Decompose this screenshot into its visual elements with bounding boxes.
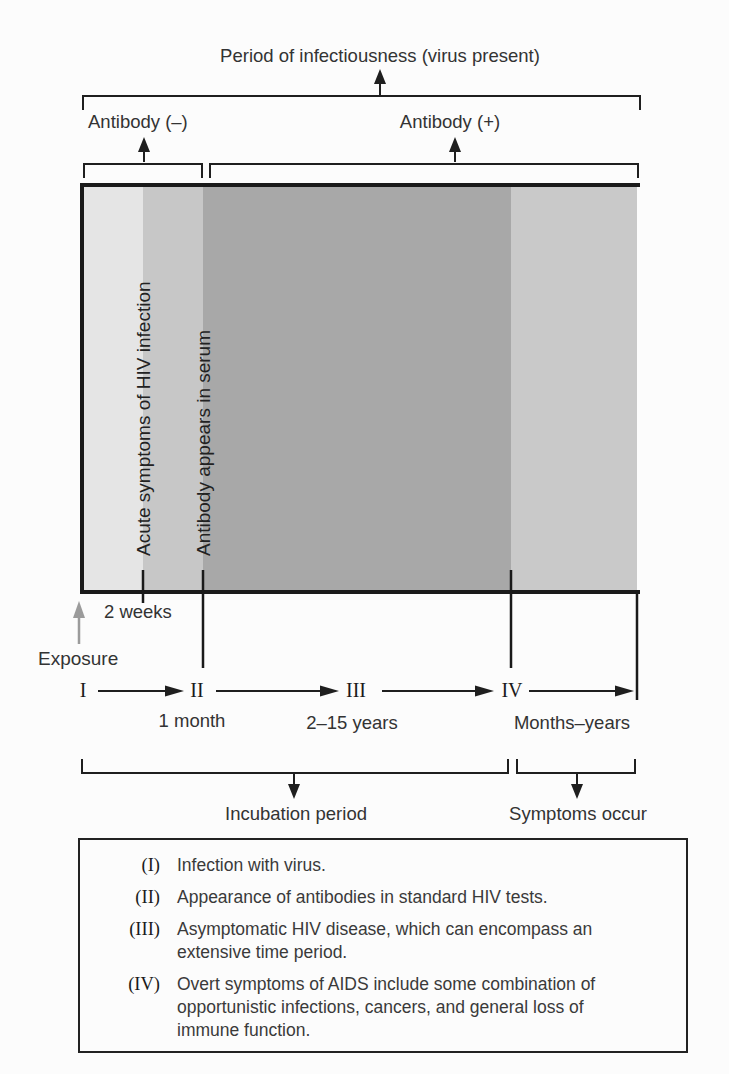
antibody-negative-up-arrow-icon (138, 137, 150, 162)
legend-row-4: (IV) Overt symptoms of AIDS include some… (102, 973, 686, 1042)
incubation-period-label: Incubation period (196, 804, 396, 824)
symptoms-bracket (517, 759, 635, 773)
phase-rectangle-border (82, 185, 640, 592)
antibody-positive-bracket (210, 164, 638, 178)
two-weeks-label: 2 weeks (104, 602, 172, 622)
legend-numeral-4: (IV) (102, 973, 160, 1042)
legend-text-1: Infection with virus. (177, 854, 637, 877)
symptoms-occur-label: Symptoms occur (488, 804, 668, 824)
stage-numeral-1: I (68, 679, 98, 701)
legend-text-2: Appearance of antibodies in standard HIV… (177, 886, 637, 909)
stage1-to-stage2-arrow-icon (98, 686, 184, 697)
legend-row-1: (I) Infection with virus. (102, 854, 686, 877)
legend-row-3: (III) Asymptomatic HIV disease, which ca… (102, 918, 686, 964)
legend-numeral-2: (II) (102, 886, 160, 909)
acute-symptoms-label: Acute symptoms of HIV infection (133, 281, 154, 556)
diagram-title: Period of infectiousness (virus present) (190, 46, 570, 66)
period-bracket (83, 96, 640, 110)
antibody-negative-label: Antibody (–) (88, 112, 188, 132)
antibody-positive-up-arrow-icon (449, 137, 461, 162)
legend-numeral-1: (I) (102, 854, 160, 877)
symptoms-down-arrow-icon (571, 773, 583, 799)
duration-one-month: 1 month (112, 711, 272, 731)
legend-row-2: (II) Appearance of antibodies in standar… (102, 886, 686, 909)
stage-legend-box: (I) Infection with virus. (II) Appearanc… (78, 838, 688, 1053)
incubation-down-arrow-icon (288, 773, 300, 799)
legend-text-4: Overt symptoms of AIDS include some comb… (177, 973, 637, 1042)
legend-text-3: Asymptomatic HIV disease, which can enco… (177, 918, 637, 964)
antibody-positive-label: Antibody (+) (370, 112, 530, 132)
incubation-bracket (82, 759, 508, 773)
stage-numeral-2: II (182, 679, 212, 701)
duration-2-15-years: 2–15 years (272, 713, 432, 733)
stage2-to-stage3-arrow-icon (216, 686, 339, 697)
period-up-arrow-icon (374, 69, 386, 96)
exposure-up-arrow-icon (73, 601, 85, 644)
legend-numeral-3: (III) (102, 918, 160, 964)
antibody-appears-label: Antibody appears in serum (193, 330, 214, 556)
stage4-onward-arrow-icon (529, 686, 634, 697)
antibody-negative-bracket (84, 164, 202, 178)
stage3-to-stage4-arrow-icon (382, 686, 494, 697)
duration-months-years: Months–years (492, 713, 652, 733)
stage-numeral-4: IV (492, 679, 532, 701)
stage-numeral-3: III (336, 679, 376, 701)
exposure-label: Exposure (38, 649, 118, 669)
hiv-infection-timeline-diagram: Period of infectiousness (virus present)… (0, 0, 729, 1074)
